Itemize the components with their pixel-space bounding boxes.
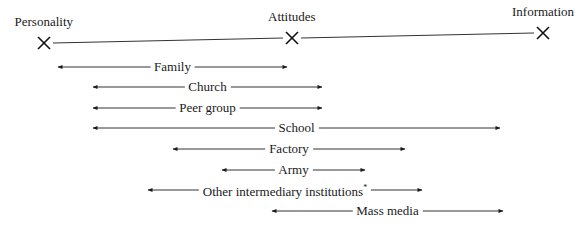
institution-label: Other intermediary institutions* [199,181,371,198]
institution-label-text: School [278,120,314,135]
institution-label-text: Peer group [179,100,236,115]
institution-label: Factory [265,142,313,156]
institution-label: Mass media [352,204,422,218]
institution-label: Family [150,60,195,74]
institution-label: Army [274,163,312,177]
cross-mark-icon [286,32,298,44]
institution-label: School [274,121,318,135]
diagram-lines [0,0,588,238]
spine-line [38,27,549,49]
institution-label-text: Other intermediary institutions [203,184,363,199]
node-label-attitudes: Attitudes [268,10,316,24]
cross-mark-icon [537,27,549,39]
footnote-mark: * [363,183,367,192]
spine-segment [301,33,534,38]
institution-label-text: Factory [269,141,309,156]
spine-segment [53,38,283,43]
institution-label-text: Church [188,79,226,94]
institution-label-text: Army [278,162,308,177]
cross-mark-icon [38,37,50,49]
institution-label-text: Family [154,59,191,74]
institution-label: Peer group [175,101,240,115]
node-label-information: Information [512,5,574,19]
node-label-personality: Personality [15,15,74,29]
institution-label-text: Mass media [356,203,418,218]
institution-label: Church [184,80,230,94]
